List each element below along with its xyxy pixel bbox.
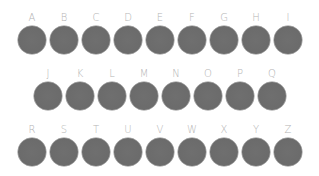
key-e[interactable]: E	[145, 12, 175, 58]
key-w[interactable]: W	[177, 124, 207, 170]
key-label: W	[177, 124, 207, 136]
key-circle	[18, 26, 46, 54]
key-label: H	[241, 12, 271, 24]
key-label: T	[81, 124, 111, 136]
key-circle	[194, 82, 222, 110]
key-circle	[210, 26, 238, 54]
key-label: R	[17, 124, 47, 136]
key-circle	[242, 26, 270, 54]
key-p[interactable]: P	[225, 68, 255, 114]
key-label: P	[225, 68, 255, 80]
key-circle	[258, 82, 286, 110]
key-b[interactable]: B	[49, 12, 79, 58]
key-circle	[114, 138, 142, 166]
key-circle	[66, 82, 94, 110]
key-k[interactable]: K	[65, 68, 95, 114]
key-circle	[50, 26, 78, 54]
key-circle	[18, 138, 46, 166]
key-circle	[210, 138, 238, 166]
key-label: C	[81, 12, 111, 24]
key-a[interactable]: A	[17, 12, 47, 58]
key-label: K	[65, 68, 95, 80]
key-label: O	[193, 68, 223, 80]
key-z[interactable]: Z	[273, 124, 303, 170]
key-i[interactable]: I	[273, 12, 303, 58]
key-circle	[162, 82, 190, 110]
key-c[interactable]: C	[81, 12, 111, 58]
key-n[interactable]: N	[161, 68, 191, 114]
key-d[interactable]: D	[113, 12, 143, 58]
key-circle	[34, 82, 62, 110]
key-label: M	[129, 68, 159, 80]
key-u[interactable]: U	[113, 124, 143, 170]
key-circle	[178, 138, 206, 166]
key-label: D	[113, 12, 143, 24]
key-t[interactable]: T	[81, 124, 111, 170]
key-y[interactable]: Y	[241, 124, 271, 170]
key-circle	[242, 138, 270, 166]
key-j[interactable]: J	[33, 68, 63, 114]
key-label: Z	[273, 124, 303, 136]
key-circle	[226, 82, 254, 110]
key-g[interactable]: G	[209, 12, 239, 58]
key-f[interactable]: F	[177, 12, 207, 58]
key-circle	[82, 138, 110, 166]
key-label: B	[49, 12, 79, 24]
key-label: U	[113, 124, 143, 136]
key-label: Y	[241, 124, 271, 136]
key-circle	[130, 82, 158, 110]
key-s[interactable]: S	[49, 124, 79, 170]
key-label: A	[17, 12, 47, 24]
key-x[interactable]: X	[209, 124, 239, 170]
key-h[interactable]: H	[241, 12, 271, 58]
key-m[interactable]: M	[129, 68, 159, 114]
key-circle	[114, 26, 142, 54]
key-label: S	[49, 124, 79, 136]
key-circle	[146, 138, 174, 166]
key-q[interactable]: Q	[257, 68, 287, 114]
key-label: L	[97, 68, 127, 80]
key-circle	[274, 26, 302, 54]
key-label: X	[209, 124, 239, 136]
key-circle	[98, 82, 126, 110]
key-circle	[274, 138, 302, 166]
key-circle	[50, 138, 78, 166]
key-label: G	[209, 12, 239, 24]
key-label: E	[145, 12, 175, 24]
key-label: I	[273, 12, 303, 24]
key-label: F	[177, 12, 207, 24]
key-circle	[82, 26, 110, 54]
key-label: J	[33, 68, 63, 80]
key-label: V	[145, 124, 175, 136]
key-label: Q	[257, 68, 287, 80]
key-o[interactable]: O	[193, 68, 223, 114]
key-circle	[146, 26, 174, 54]
key-r[interactable]: R	[17, 124, 47, 170]
key-v[interactable]: V	[145, 124, 175, 170]
key-l[interactable]: L	[97, 68, 127, 114]
key-circle	[178, 26, 206, 54]
key-label: N	[161, 68, 191, 80]
